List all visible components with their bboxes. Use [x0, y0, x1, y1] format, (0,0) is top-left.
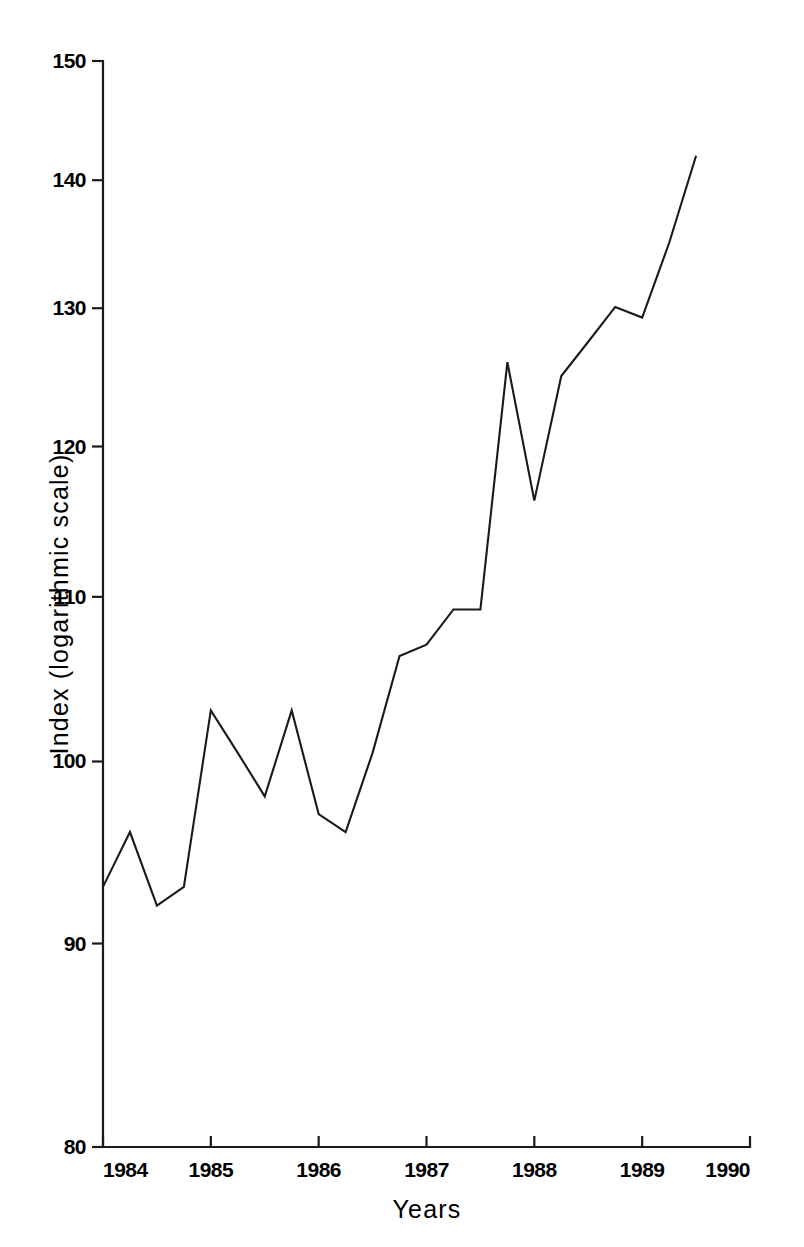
chart-figure: 8090100110120130140150 19841985198619871…: [0, 0, 804, 1247]
y-tick-label: 90: [64, 932, 86, 955]
x-tick-label: 1985: [188, 1158, 234, 1181]
plot-background: [0, 0, 804, 1247]
x-tick-label: 1989: [620, 1158, 665, 1181]
y-axis-title: Index (logarithmic scale): [45, 454, 73, 755]
line-chart-canvas: 8090100110120130140150 19841985198619871…: [0, 0, 804, 1247]
x-tick-label: 1986: [296, 1158, 341, 1181]
y-tick-label: 130: [52, 296, 86, 319]
x-axis-tick-labels: 1984198519861987198819891990: [103, 1158, 750, 1181]
x-tick-label: 1988: [512, 1158, 558, 1181]
x-tick-label: 1984: [103, 1158, 149, 1181]
y-tick-label: 140: [52, 168, 86, 191]
x-axis-title: Years: [392, 1195, 461, 1223]
x-tick-label: 1987: [404, 1158, 449, 1181]
y-tick-label: 80: [64, 1135, 86, 1158]
x-tick-label: 1990: [705, 1158, 750, 1181]
y-tick-label: 150: [52, 49, 86, 72]
